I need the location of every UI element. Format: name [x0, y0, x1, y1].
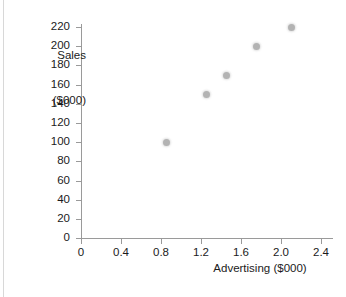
data-point-1 [163, 139, 170, 146]
data-point-3 [223, 72, 230, 79]
x-tick-0.4 [121, 239, 122, 244]
y-tick-60 [76, 181, 81, 182]
x-tick-2.4 [321, 239, 322, 244]
x-tick-label-0.4: 0.4 [101, 246, 141, 258]
y-tick-100 [76, 142, 81, 143]
x-tick-0.8 [161, 239, 162, 244]
y-tick-label-20: 20 [57, 213, 70, 224]
y-axis-title-line2: ($000) [8, 93, 86, 108]
x-axis-title: Advertising ($000) [180, 262, 340, 274]
data-point-2 [203, 91, 210, 98]
x-tick-2.0 [281, 239, 282, 244]
y-axis-title: Sales ($000) [8, 18, 86, 138]
y-tick-80 [76, 161, 81, 162]
x-tick-label-2.0: 2.0 [261, 246, 301, 258]
x-tick-label-0.8: 0.8 [141, 246, 181, 258]
x-axis-line [81, 238, 333, 239]
x-tick-1.2 [201, 239, 202, 244]
x-tick-label-1.6: 1.6 [221, 246, 261, 258]
y-tick-20 [76, 219, 81, 220]
x-tick-label-0: 0 [61, 246, 101, 258]
x-tick-label-2.4: 2.4 [301, 246, 341, 258]
x-tick-0 [81, 239, 82, 244]
y-tick-label-60: 60 [57, 175, 70, 186]
y-axis-title-line1: Sales [8, 48, 86, 63]
data-point-4 [253, 43, 260, 50]
scatter-plot-area: 020406080100120140160180200220 00.40.81.… [0, 0, 346, 297]
chart-figure: 020406080100120140160180200220 00.40.81.… [0, 0, 346, 297]
x-tick-label-1.2: 1.2 [181, 246, 221, 258]
y-tick-label-80: 80 [57, 155, 70, 166]
y-tick-label-40: 40 [57, 194, 70, 205]
x-tick-1.6 [241, 239, 242, 244]
y-tick-40 [76, 200, 81, 201]
y-tick-label-0: 0 [64, 232, 70, 243]
data-point-5 [288, 24, 295, 31]
